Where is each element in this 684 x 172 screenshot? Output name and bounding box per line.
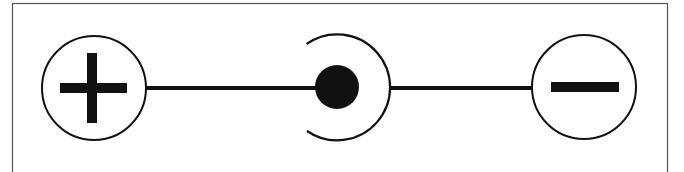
minus-icon xyxy=(532,35,636,139)
plus-icon xyxy=(42,36,146,140)
polarity-diagram xyxy=(0,0,684,172)
center-connector-icon xyxy=(307,34,390,140)
